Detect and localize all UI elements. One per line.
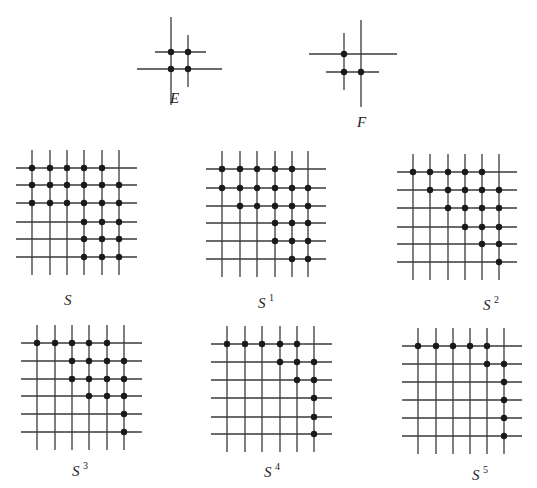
vertex-dot <box>294 359 300 365</box>
vertex-dot <box>116 219 122 225</box>
vertex-dot <box>311 431 317 437</box>
vertex-dot <box>69 358 75 364</box>
grid-label-s3: S <box>72 463 80 479</box>
vertex-dot <box>496 259 502 265</box>
grid-label-s3-superscript: 3 <box>83 460 88 471</box>
vertex-dot <box>289 166 295 172</box>
vertex-dot <box>289 185 295 191</box>
grid-label-s5: S <box>472 467 480 483</box>
vertex-dot <box>415 343 421 349</box>
vertex-dot <box>104 376 110 382</box>
grid-s4: S4 <box>211 326 332 480</box>
vertex-dot <box>358 69 364 75</box>
vertex-dot <box>47 200 53 206</box>
vertex-dot <box>272 166 278 172</box>
vertex-dot <box>462 224 468 230</box>
vertex-dot <box>81 182 87 188</box>
vertex-dot <box>259 341 265 347</box>
vertex-dot <box>305 185 311 191</box>
vertex-dot <box>47 182 53 188</box>
vertex-dot <box>289 220 295 226</box>
vertex-dot <box>445 187 451 193</box>
vertex-dot <box>116 236 122 242</box>
vertex-dot <box>311 359 317 365</box>
vertex-dot <box>254 166 260 172</box>
vertex-dot <box>219 185 225 191</box>
vertex-dot <box>99 219 105 225</box>
vertex-dot <box>81 254 87 260</box>
vertex-dot <box>272 220 278 226</box>
vertex-dot <box>86 376 92 382</box>
vertex-dot <box>501 433 507 439</box>
vertex-dot <box>104 393 110 399</box>
vertex-dot <box>29 182 35 188</box>
grid-s2: S2 <box>397 154 517 313</box>
vertex-dot <box>445 205 451 211</box>
vertex-dot <box>479 205 485 211</box>
grid-label-s5-superscript: 5 <box>483 464 488 475</box>
vertex-dot <box>496 187 502 193</box>
vertex-dot <box>99 254 105 260</box>
vertex-dot <box>496 241 502 247</box>
vertex-dot <box>450 343 456 349</box>
vertex-dot <box>445 169 451 175</box>
vertex-dot <box>501 397 507 403</box>
vertex-dot <box>99 200 105 206</box>
vertex-dot <box>479 241 485 247</box>
vertex-dot <box>168 66 174 72</box>
vertex-dot <box>272 203 278 209</box>
vertex-dot <box>99 165 105 171</box>
vertex-dot <box>242 341 248 347</box>
vertex-dot <box>224 341 230 347</box>
vertex-dot <box>81 165 87 171</box>
vertex-dot <box>34 340 40 346</box>
vertex-dot <box>116 254 122 260</box>
figure-label-f: F <box>356 114 367 130</box>
vertex-dot <box>116 200 122 206</box>
vertex-dot <box>305 256 311 262</box>
vertex-dot <box>496 205 502 211</box>
grid-label-s2: S <box>483 297 491 313</box>
vertex-dot <box>305 203 311 209</box>
vertex-dot <box>104 340 110 346</box>
vertex-dot <box>277 359 283 365</box>
grid-figures: SS1S2S3S4S5 <box>16 150 522 483</box>
grid-label-s1: S <box>258 295 266 311</box>
vertex-dot <box>47 165 53 171</box>
vertex-dot <box>305 238 311 244</box>
vertex-dot <box>121 411 127 417</box>
grid-s1: S1 <box>206 151 326 311</box>
vertex-dot <box>254 203 260 209</box>
vertex-dot <box>433 343 439 349</box>
vertex-dot <box>289 203 295 209</box>
vertex-dot <box>86 393 92 399</box>
vertex-dot <box>99 182 105 188</box>
vertex-dot <box>64 200 70 206</box>
vertex-dot <box>501 379 507 385</box>
diagram-canvas: E F SS1S2S3S4S5 <box>0 0 537 488</box>
vertex-dot <box>81 200 87 206</box>
vertex-dot <box>341 51 347 57</box>
vertex-dot <box>69 376 75 382</box>
vertex-dot <box>496 224 502 230</box>
vertex-dot <box>427 169 433 175</box>
vertex-dot <box>462 169 468 175</box>
vertex-dot <box>294 377 300 383</box>
vertex-dot <box>104 358 110 364</box>
vertex-dot <box>29 200 35 206</box>
vertex-dot <box>341 69 347 75</box>
vertex-dot <box>467 343 473 349</box>
vertex-dot <box>99 236 105 242</box>
vertex-dot <box>237 166 243 172</box>
vertex-dot <box>185 66 191 72</box>
vertex-dot <box>484 343 490 349</box>
vertex-dot <box>427 187 433 193</box>
vertex-dot <box>272 238 278 244</box>
figure-e: E <box>137 17 222 106</box>
grid-s5: S5 <box>402 328 522 483</box>
vertex-dot <box>462 205 468 211</box>
figure-label-e: E <box>169 90 179 106</box>
vertex-dot <box>479 224 485 230</box>
vertex-dot <box>462 187 468 193</box>
vertex-dot <box>479 169 485 175</box>
